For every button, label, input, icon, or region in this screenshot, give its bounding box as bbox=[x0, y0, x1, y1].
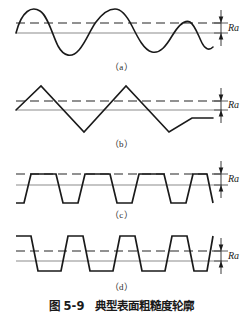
panel-a-plot: Ra bbox=[0, 0, 243, 62]
ra-dimension-marker: Ra bbox=[214, 88, 239, 123]
panel-a-label: （a） bbox=[0, 60, 243, 73]
panel-c: Ra （c） bbox=[0, 150, 243, 225]
ra-label: Ra bbox=[227, 22, 239, 33]
panel-b: Ra （b） bbox=[0, 77, 243, 152]
figure-caption: 图 5-9 典型表面粗糙度轮廓 bbox=[0, 297, 243, 313]
ra-dimension-marker: Ra bbox=[214, 238, 239, 274]
roughness-profile-sine bbox=[16, 9, 213, 55]
figure-container: Ra （a） Ra （b） bbox=[0, 0, 243, 320]
roughness-profile-trapezoid-peaks bbox=[16, 174, 213, 203]
ra-arrow-up-icon bbox=[219, 245, 224, 252]
panel-a: Ra （a） bbox=[0, 0, 243, 75]
roughness-profile-trapezoid-valleys bbox=[16, 236, 213, 271]
ra-arrow-up-icon bbox=[219, 17, 224, 24]
ra-label: Ra bbox=[227, 173, 239, 184]
panel-b-plot: Ra bbox=[0, 77, 243, 139]
ra-arrow-up-icon bbox=[219, 168, 224, 175]
ra-dimension-marker: Ra bbox=[214, 10, 239, 46]
panel-d-label: （d） bbox=[0, 280, 243, 293]
panel-c-plot: Ra bbox=[0, 150, 243, 212]
ra-arrow-down-icon bbox=[219, 261, 224, 268]
panel-b-label: （b） bbox=[0, 137, 243, 150]
panel-d: Ra （d） bbox=[0, 222, 243, 297]
ra-label: Ra bbox=[227, 99, 239, 110]
ra-dimension-marker: Ra bbox=[214, 161, 239, 198]
ra-arrow-down-icon bbox=[219, 185, 224, 192]
ra-arrow-down-icon bbox=[219, 33, 224, 40]
ra-label: Ra bbox=[227, 250, 239, 261]
ra-arrow-down-icon bbox=[219, 110, 224, 117]
roughness-profile-triangle bbox=[16, 86, 213, 132]
panel-d-plot: Ra bbox=[0, 222, 243, 284]
ra-arrow-up-icon bbox=[219, 95, 224, 102]
panel-c-label: （c） bbox=[0, 208, 243, 221]
